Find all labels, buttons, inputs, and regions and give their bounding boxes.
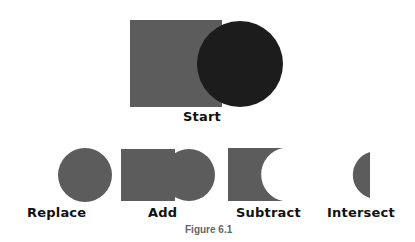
subtract-label: Subtract — [236, 205, 301, 220]
start-label: Start — [183, 109, 221, 124]
start-circle — [197, 21, 283, 107]
intersect-shape — [353, 152, 370, 198]
figure-caption: Figure 6.1 — [185, 224, 232, 235]
add-shape — [121, 149, 215, 201]
intersect-label: Intersect — [327, 205, 395, 220]
subtract-shape — [228, 148, 283, 201]
add-label: Add — [148, 205, 177, 220]
replace-circle — [58, 148, 112, 202]
replace-label: Replace — [27, 205, 86, 220]
